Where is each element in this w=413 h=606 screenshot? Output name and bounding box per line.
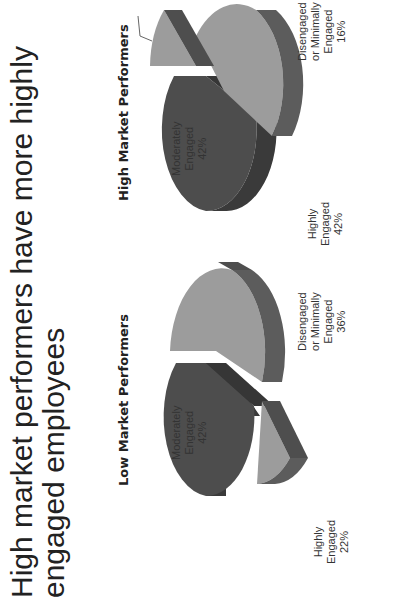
label-line: Disengaged: [296, 2, 309, 61]
label-high-moderately: Moderately Engaged 42%: [170, 122, 209, 176]
label-line: 42%: [196, 406, 209, 460]
label-line: Moderately: [170, 122, 183, 176]
label-line: Engaged: [322, 2, 335, 61]
label-low-disengaged: Disengaged or Minimally Engaged 36%: [296, 292, 348, 351]
label-line: Highly: [306, 202, 319, 246]
label-line: Engaged: [322, 292, 335, 351]
label-line: or Minimally: [309, 2, 322, 61]
label-line: Engaged: [183, 406, 196, 460]
slice-low-highly-engaged: [257, 401, 308, 484]
label-line: Engaged: [325, 520, 338, 564]
pie-low-performers: [164, 262, 308, 496]
label-line: Engaged: [183, 122, 196, 176]
leader-line: [138, 16, 152, 41]
label-high-highly: Highly Engaged 42%: [306, 202, 345, 246]
label-low-moderately: Moderately Engaged 42%: [170, 406, 209, 460]
label-high-disengaged: Disengaged or Minimally Engaged 16%: [296, 2, 348, 61]
label-line: 16%: [335, 2, 348, 61]
label-line: Disengaged: [296, 292, 309, 351]
label-line: or Minimally: [309, 292, 322, 351]
pie-high-performers: [138, 4, 303, 211]
label-line: Engaged: [319, 202, 332, 246]
label-low-highly: Highly Engaged 22%: [312, 520, 351, 564]
label-line: Moderately: [170, 406, 183, 460]
label-line: 42%: [332, 202, 345, 246]
label-line: Highly: [312, 520, 325, 564]
label-line: 36%: [335, 292, 348, 351]
label-line: 22%: [338, 520, 351, 564]
slide: High market performers have more highly …: [0, 0, 413, 606]
pie-charts: [0, 0, 413, 606]
label-line: 42%: [196, 122, 209, 176]
